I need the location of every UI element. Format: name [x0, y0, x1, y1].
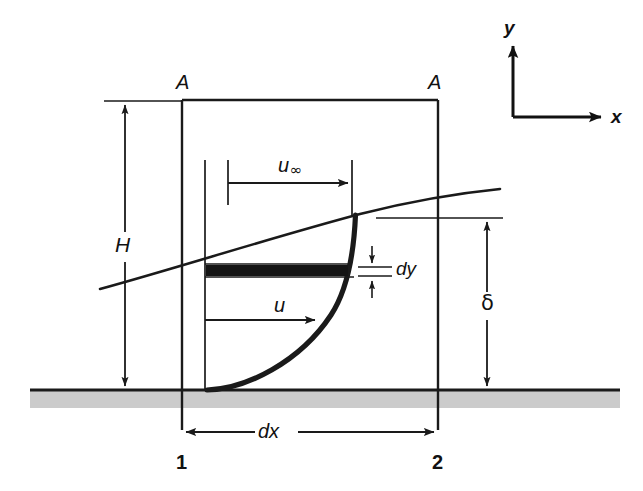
- coordinate-axes: [513, 46, 601, 117]
- label-axis-x: x: [611, 107, 622, 126]
- label-control-surface-left-A: A: [176, 72, 189, 92]
- label-control-volume-height: H: [115, 234, 130, 255]
- label-local-velocity: u: [274, 295, 285, 315]
- label-freestream-velocity: u∞: [278, 155, 302, 178]
- label-dx: dx: [258, 421, 279, 441]
- diagram-canvas: [0, 0, 643, 491]
- label-boundary-layer-thickness: δ: [481, 293, 494, 314]
- label-dy: dy: [396, 259, 416, 278]
- boundary-layer-figure: A A H δ dx dy u u∞ 1 2 y x: [0, 0, 643, 491]
- wall-surface: [30, 390, 620, 408]
- freestream-subscript: ∞: [290, 161, 303, 179]
- label-station-1: 1: [176, 452, 187, 472]
- label-control-surface-right-A: A: [428, 72, 441, 92]
- label-axis-y: y: [504, 18, 515, 37]
- freestream-symbol: u: [278, 154, 289, 176]
- wall-hatch-band: [30, 391, 620, 408]
- label-station-2: 2: [432, 452, 443, 472]
- dy-strip-fill: [206, 265, 348, 276]
- dy-strip-group: [205, 246, 392, 298]
